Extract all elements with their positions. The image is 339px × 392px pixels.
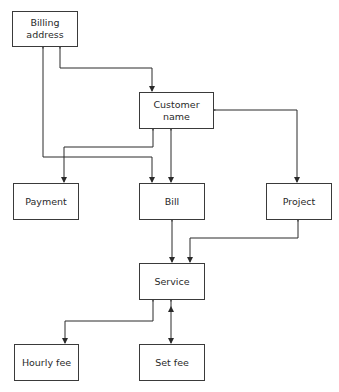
- node-label: Customer: [153, 99, 199, 111]
- edge-customer-payment: [64, 130, 153, 182]
- node-service: Service: [139, 263, 205, 300]
- node-label: Payment: [25, 196, 67, 208]
- set-fee-extra-arrow-icon: [168, 306, 174, 312]
- node-project: Project: [266, 183, 332, 220]
- node-label: address: [26, 29, 63, 41]
- node-label: Hourly fee: [22, 357, 71, 369]
- node-label: Set fee: [155, 357, 189, 369]
- node-set-fee: Set fee: [139, 344, 205, 381]
- node-label: Service: [154, 276, 189, 288]
- node-payment: Payment: [13, 183, 79, 220]
- node-label: name: [153, 111, 199, 123]
- node-label: Bill: [165, 196, 179, 208]
- edge-customer-project: [215, 110, 297, 182]
- node-billing-address: Billing address: [12, 11, 78, 47]
- diagram-canvas: Billing address Customer name Payment Bi…: [0, 0, 339, 392]
- edge-billing-customer: [60, 48, 152, 91]
- node-customer-name: Customer name: [139, 92, 214, 129]
- node-hourly-fee: Hourly fee: [14, 344, 79, 381]
- node-bill: Bill: [139, 183, 205, 220]
- edge-service-hourly: [65, 301, 153, 343]
- node-label: Project: [283, 196, 316, 208]
- node-label: Billing: [26, 17, 63, 29]
- edge-project-service: [190, 221, 298, 262]
